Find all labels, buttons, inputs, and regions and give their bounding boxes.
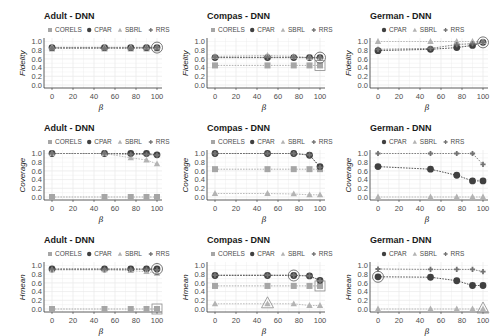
- y-tick-label: 0.8: [32, 270, 42, 279]
- cpar-circle-marker: [453, 172, 460, 179]
- y-tick-label: 1.0: [32, 37, 42, 46]
- y-tick-label: 0.8: [195, 270, 205, 279]
- series-markers-sbrl: [375, 194, 486, 200]
- x-tick-label: 40: [416, 204, 424, 213]
- y-tick-label: 0.6: [358, 55, 368, 64]
- sbrl-triangle-marker: [306, 302, 312, 308]
- chart-title: Adult - DNN: [44, 11, 95, 21]
- chart-panel: German - DNNCPARSBRLRRS0.00.20.40.60.81.…: [344, 11, 489, 112]
- corels-square-marker: [317, 283, 323, 289]
- cpar-circle-marker: [427, 274, 434, 281]
- y-tick-label: 0.0: [195, 193, 205, 202]
- series-markers-corels: [212, 283, 323, 289]
- y-axis-label: Coverage: [181, 157, 190, 192]
- x-tick-label: 80: [458, 92, 466, 101]
- legend-label: CPAR: [94, 250, 112, 257]
- corels-square-marker: [265, 166, 271, 172]
- x-tick-label: 40: [253, 92, 261, 101]
- y-axis-label: Hmean: [181, 274, 190, 300]
- legend-label: SBRL: [288, 26, 305, 33]
- x-tick-label: 100: [477, 204, 490, 213]
- legend-label: SBRL: [420, 138, 437, 145]
- y-tick-label: 0.0: [32, 193, 42, 202]
- legend-square-icon: [211, 252, 215, 256]
- y-tick-label: 0.4: [195, 175, 205, 184]
- chart-title: Compas - DNN: [207, 123, 270, 133]
- legend-label: CORELS: [55, 250, 82, 257]
- x-tick-label: 0: [213, 204, 217, 213]
- sbrl-triangle-marker: [212, 190, 218, 196]
- corels-square-marker: [49, 194, 55, 200]
- legend-square-icon: [48, 28, 52, 32]
- legend: CPARSBRLRRS: [382, 250, 465, 257]
- x-tick-label: 100: [477, 92, 490, 101]
- x-axis-label: β: [261, 215, 267, 224]
- x-tick-label: 100: [477, 316, 490, 325]
- y-axis-label: Coverage: [344, 157, 353, 192]
- legend-label: RRS: [156, 138, 170, 145]
- legend: CORELSCPARSBRLRRS: [48, 26, 170, 33]
- legend-label: CPAR: [389, 26, 407, 33]
- corels-square-marker: [128, 194, 134, 200]
- y-axis-label: Fidelity: [18, 50, 27, 76]
- x-tick-label: 0: [50, 316, 54, 325]
- y-tick-label: 0.6: [195, 279, 205, 288]
- x-axis-label: β: [424, 103, 430, 112]
- legend-circle-icon: [382, 28, 386, 32]
- y-tick-label: 0.2: [32, 296, 42, 305]
- x-axis-label: β: [424, 215, 430, 224]
- x-tick-label: 40: [90, 316, 98, 325]
- corels-square-marker: [144, 194, 150, 200]
- corels-square-marker: [154, 194, 160, 200]
- rrs-cross-marker: [470, 151, 475, 156]
- sbrl-triangle-marker: [317, 191, 323, 197]
- x-tick-label: 20: [69, 316, 77, 325]
- chart-panel: Adult - DNNCORELSCPARSBRLRRS0.00.20.40.6…: [18, 11, 170, 112]
- x-tick-label: 100: [314, 204, 327, 213]
- corels-square-marker: [102, 306, 108, 312]
- y-tick-label: 0.6: [32, 279, 42, 288]
- y-tick-label: 0.0: [32, 81, 42, 90]
- y-tick-label: 0.4: [195, 287, 205, 296]
- x-tick-label: 60: [111, 204, 119, 213]
- legend-cross-icon: [312, 140, 316, 144]
- y-tick-label: 0.2: [358, 296, 368, 305]
- chart-panel: German - DNNCPARSBRLRRS0.00.20.40.60.81.…: [344, 123, 489, 224]
- x-axis-label: β: [98, 215, 104, 224]
- legend-label: CPAR: [389, 250, 407, 257]
- legend-label: RRS: [319, 250, 333, 257]
- legend-cross-icon: [149, 28, 153, 32]
- legend-cross-icon: [312, 252, 316, 256]
- y-tick-label: 0.4: [358, 175, 368, 184]
- corels-square-marker: [291, 283, 297, 289]
- legend-triangle-icon: [281, 28, 285, 32]
- sbrl-triangle-marker: [427, 38, 433, 44]
- legend-square-icon: [211, 140, 215, 144]
- legend: CORELSCPARSBRLRRS: [48, 138, 170, 145]
- x-tick-label: 40: [416, 92, 424, 101]
- figure: Adult - DNNCORELSCPARSBRLRRS0.00.20.40.6…: [0, 0, 492, 336]
- legend-label: SBRL: [125, 250, 142, 257]
- legend-label: SBRL: [288, 250, 305, 257]
- legend-circle-icon: [250, 252, 254, 256]
- legend-cross-icon: [444, 140, 448, 144]
- sbrl-triangle-marker: [306, 191, 312, 197]
- legend-label: SBRL: [420, 26, 437, 33]
- x-tick-label: 0: [376, 92, 380, 101]
- x-tick-label: 20: [232, 92, 240, 101]
- y-tick-label: 0.8: [358, 46, 368, 55]
- y-tick-label: 1.0: [358, 149, 368, 158]
- legend-cross-icon: [312, 28, 316, 32]
- legend-label: CPAR: [389, 138, 407, 145]
- x-tick-label: 60: [274, 92, 282, 101]
- corels-square-marker: [307, 62, 313, 68]
- legend-triangle-icon: [281, 252, 285, 256]
- x-tick-label: 0: [213, 316, 217, 325]
- legend-triangle-icon: [413, 28, 417, 32]
- y-tick-label: 1.0: [195, 261, 205, 270]
- x-tick-label: 20: [395, 316, 403, 325]
- x-tick-label: 0: [50, 92, 54, 101]
- cpar-circle-marker: [469, 178, 476, 185]
- x-tick-label: 100: [151, 92, 164, 101]
- legend-label: CPAR: [257, 26, 275, 33]
